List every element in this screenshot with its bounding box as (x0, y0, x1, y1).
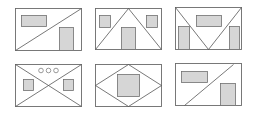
placeholder-box-wide (182, 72, 208, 83)
thumbnail-layout-diagonal-right[interactable] (16, 9, 82, 51)
placeholder-box-left (100, 16, 111, 28)
dot-1 (39, 68, 44, 73)
placeholder-box-left (24, 80, 34, 91)
dot-3 (54, 68, 59, 73)
placeholder-box-left (179, 27, 190, 50)
thumbnail-layout-v-inverted-triangle[interactable] (176, 8, 242, 50)
thumbnail-layout-x-cross-dots[interactable] (16, 65, 82, 107)
placeholder-box-right (147, 16, 158, 28)
dot-2 (46, 68, 51, 73)
thumbnail-layout-house-triangle[interactable] (96, 9, 162, 50)
thumbnail-layout-diamond-center[interactable] (96, 65, 162, 107)
placeholder-box-top (197, 16, 222, 27)
placeholder-box-wide (22, 16, 47, 27)
placeholder-box-center (118, 75, 140, 97)
placeholder-box-center (122, 28, 136, 50)
thumbnail-layout-diagonal-partial[interactable] (176, 64, 242, 106)
placeholder-box-tall (60, 28, 74, 51)
layout-thumbnails-grid (0, 0, 253, 117)
placeholder-box-tall (221, 84, 236, 106)
placeholder-box-right (64, 80, 74, 91)
placeholder-box-right (230, 27, 240, 50)
